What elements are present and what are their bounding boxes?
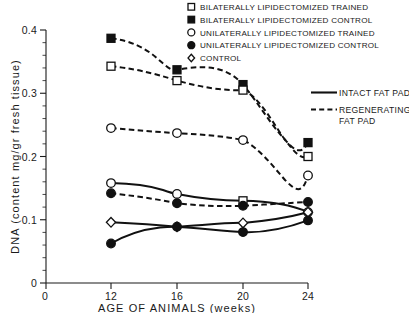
data-point-marker bbox=[107, 34, 115, 42]
legend-label-control: CONTROL bbox=[200, 54, 242, 63]
legend-label-regenerating-fat-pad-line2: FAT PAD bbox=[339, 116, 375, 126]
data-point-marker bbox=[107, 62, 115, 70]
data-point-marker bbox=[304, 216, 313, 225]
legend-marker-open-diamond-icon bbox=[188, 54, 195, 61]
data-point-marker bbox=[304, 153, 312, 161]
x-tick-label-24: 24 bbox=[302, 290, 314, 302]
y-tick-label-0.4: 0.4 bbox=[22, 24, 37, 36]
data-point-marker bbox=[107, 189, 116, 198]
data-point-marker bbox=[239, 202, 248, 211]
data-point-marker bbox=[173, 199, 182, 208]
y-tick-label-0.1: 0.1 bbox=[22, 214, 37, 226]
legend-label-bilaterally-lipidectomized-control: BILATERALLY LIPIDECTOMIZED CONTROL bbox=[200, 16, 373, 25]
data-point-marker bbox=[107, 179, 116, 188]
legend-marker-open-circle-icon bbox=[188, 29, 195, 36]
legend-marker-open-square-icon bbox=[188, 4, 195, 11]
data-point-marker bbox=[107, 239, 116, 248]
x-tick-label-0: 0 bbox=[42, 290, 48, 302]
axes-group: 0.4 0.3 0.2 0.1 0 0 12 16 20 24 DNA (con… bbox=[9, 24, 314, 313]
series-bilaterally-lipidectomized-control-regenerating bbox=[107, 34, 312, 150]
legend-label-bilaterally-lipidectomized-trained: BILATERALLY LIPIDECTOMIZED TRAINED bbox=[200, 3, 368, 12]
y-axis-title: DNA (content mg/gr fresh tissue) bbox=[9, 59, 21, 254]
legend-marker-filled-circle-icon bbox=[188, 42, 195, 49]
data-point-marker bbox=[304, 171, 313, 180]
series-unilaterally-lipidectomized-control-intact bbox=[107, 216, 313, 248]
marker-legend: BILATERALLY LIPIDECTOMIZED TRAINED BILAT… bbox=[188, 3, 380, 63]
chart-figure: 0.4 0.3 0.2 0.1 0 0 12 16 20 24 DNA (con… bbox=[0, 0, 409, 313]
series-line bbox=[111, 128, 308, 189]
y-tick-label-0: 0 bbox=[31, 277, 37, 289]
legend-label-unilaterally-lipidectomized-trained: UNILATERALLY LIPIDECTOMIZED TRAINED bbox=[200, 29, 375, 38]
data-point-marker bbox=[173, 190, 182, 199]
legend-marker-filled-square-icon bbox=[188, 16, 195, 23]
y-tick-label-0.2: 0.2 bbox=[22, 151, 37, 163]
data-point-marker bbox=[238, 218, 247, 228]
series-line bbox=[111, 212, 308, 227]
data-point-marker bbox=[173, 66, 181, 74]
x-tick-label-20: 20 bbox=[237, 290, 249, 302]
series-bilaterally-lipidectomized-trained-regenerating bbox=[107, 62, 312, 160]
y-tick-label-0.3: 0.3 bbox=[22, 87, 37, 99]
x-tick-label-16: 16 bbox=[171, 290, 183, 302]
line-style-legend: INTACT FAT PAD REGENERATING FAT PAD bbox=[311, 88, 409, 127]
data-point-marker bbox=[239, 136, 248, 145]
data-point-marker bbox=[304, 198, 313, 207]
data-point-marker bbox=[239, 228, 248, 237]
data-point-marker bbox=[239, 86, 247, 94]
series-line bbox=[111, 66, 308, 157]
x-axis-title: AGE OF ANIMALS (weeks) bbox=[98, 302, 256, 313]
series-unilaterally-lipidectomized-trained-intact bbox=[107, 179, 313, 217]
dna-vs-age-line-chart: 0.4 0.3 0.2 0.1 0 0 12 16 20 24 DNA (con… bbox=[0, 0, 409, 313]
legend-label-unilaterally-lipidectomized-control: UNILATERALLY LIPIDECTOMIZED CONTROL bbox=[200, 41, 379, 50]
data-point-marker bbox=[106, 218, 115, 228]
data-point-marker bbox=[304, 139, 312, 147]
series-unilaterally-lipidectomized-trained-regenerating bbox=[107, 124, 313, 189]
legend-label-intact-fat-pad: INTACT FAT PAD bbox=[339, 88, 409, 98]
x-axis-major-ticks bbox=[46, 283, 308, 289]
data-point-marker bbox=[173, 129, 182, 138]
data-point-marker bbox=[173, 222, 182, 231]
data-point-marker bbox=[107, 124, 116, 133]
legend-label-regenerating-fat-pad-line1: REGENERATING bbox=[339, 105, 409, 115]
x-tick-label-12: 12 bbox=[105, 290, 117, 302]
data-point-marker bbox=[173, 77, 181, 85]
